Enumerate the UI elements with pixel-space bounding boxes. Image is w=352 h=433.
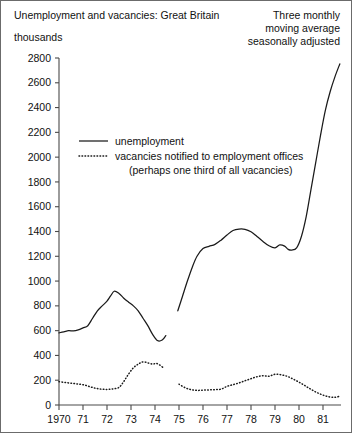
x-axis-ticks: 19707172737475767778798081 [47, 405, 329, 425]
chart-legend: unemployment vacancies notified to emplo… [79, 135, 303, 176]
data-series-layer [59, 64, 340, 397]
x-tick-label: 78 [245, 413, 257, 425]
y-tick-label: 1800 [28, 176, 52, 188]
y-tick-label: 1600 [28, 200, 52, 212]
y-tick-label: 1200 [28, 250, 52, 262]
unemployment-vacancies-chart: Unemployment and vacancies: Great Britai… [1, 1, 352, 433]
y-tick-label: 0 [45, 399, 51, 411]
x-tick-label: 77 [221, 413, 233, 425]
note-line-1: Three monthly [273, 9, 341, 21]
x-tick-label: 76 [197, 413, 209, 425]
figure-frame: Unemployment and vacancies: Great Britai… [0, 0, 352, 433]
x-tick-label: 71 [77, 413, 89, 425]
x-tick-label: 81 [317, 413, 329, 425]
series-line-vacancies-segment-2 [179, 374, 340, 397]
x-tick-label: 80 [293, 413, 305, 425]
y-tick-label: 2200 [28, 126, 52, 138]
x-tick-label: 1970 [47, 413, 71, 425]
y-tick-label: 2800 [28, 52, 52, 64]
y-tick-label: 2600 [28, 76, 52, 88]
x-tick-label: 72 [101, 413, 113, 425]
chart-title: Unemployment and vacancies: Great Britai… [14, 9, 220, 21]
y-tick-label: 200 [33, 374, 51, 386]
note-line-3: seasonally adjusted [248, 35, 340, 47]
y-tick-label: 1000 [28, 275, 52, 287]
legend-label-vacancies: vacancies notified to employment offices [115, 150, 303, 162]
y-tick-label: 600 [33, 324, 51, 336]
units-label: thousands [14, 31, 62, 43]
axes [59, 58, 341, 405]
y-tick-label: 2000 [28, 151, 52, 163]
series-line-unemployment-segment-1 [59, 291, 166, 341]
x-tick-label: 74 [149, 413, 161, 425]
y-tick-label: 800 [33, 299, 51, 311]
x-tick-label: 79 [269, 413, 281, 425]
series-line-vacancies-segment-1 [59, 362, 163, 390]
x-tick-label: 73 [125, 413, 137, 425]
y-tick-label: 2400 [28, 101, 52, 113]
note-line-2: moving average [265, 22, 340, 34]
x-tick-label: 75 [173, 413, 185, 425]
legend-sublabel-vacancies: (perhaps one third of all vacancies) [129, 164, 292, 176]
y-tick-label: 400 [33, 349, 51, 361]
y-tick-label: 1400 [28, 225, 52, 237]
legend-label-unemployment: unemployment [115, 135, 184, 147]
y-axis-ticks: 0200400600800100012001400160018002000220… [28, 52, 59, 411]
series-line-unemployment-segment-2 [178, 64, 340, 311]
